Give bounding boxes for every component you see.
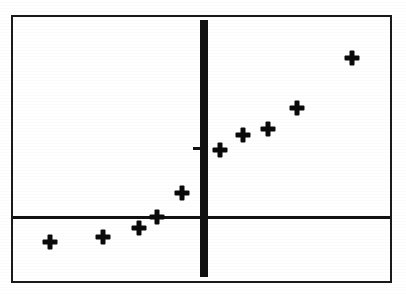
- screenshot-root: [0, 0, 406, 294]
- plot-frame-border: [11, 15, 392, 283]
